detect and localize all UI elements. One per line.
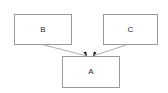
- node-c-label: C: [128, 26, 134, 34]
- node-a-label: A: [88, 68, 94, 76]
- node-c[interactable]: C: [103, 14, 158, 45]
- edge-b-to-a[interactable]: [44, 45, 87, 56]
- node-a[interactable]: A: [62, 56, 120, 88]
- edge-c-to-a[interactable]: [93, 45, 126, 56]
- node-b-label: B: [40, 26, 46, 34]
- diagram-canvas: B C A: [0, 0, 168, 93]
- edge-line-c-a: [93, 45, 126, 56]
- edge-line-b-a: [44, 45, 87, 56]
- node-b[interactable]: B: [14, 14, 72, 45]
